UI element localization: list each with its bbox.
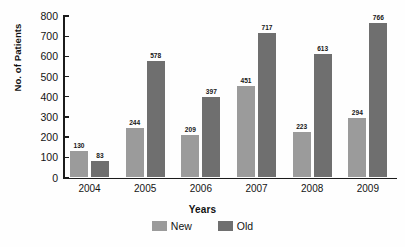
bar-new-2005 <box>126 128 144 177</box>
x-axis-label-2009: 2009 <box>343 183 393 194</box>
x-axis-label-2004: 2004 <box>65 183 115 194</box>
bar-value-label: 397 <box>196 89 226 96</box>
bar-old-2004 <box>91 161 109 178</box>
bar-value-label: 209 <box>175 127 205 134</box>
x-axis-label-2006: 2006 <box>176 183 226 194</box>
x-axis-label-2008: 2008 <box>287 183 337 194</box>
bar-value-label: 578 <box>141 53 171 60</box>
bar-old-2007 <box>258 33 276 178</box>
y-axis-tick-label: 100 <box>24 152 58 163</box>
bars-layer: 13083244578209397451717223613294766 <box>63 0 397 178</box>
y-axis-tick-label: 0 <box>24 173 58 184</box>
x-axis-label-2005: 2005 <box>120 183 170 194</box>
x-axis-line <box>63 178 397 180</box>
y-axis-tick-label: 400 <box>24 92 58 103</box>
legend-label-new: New <box>171 221 192 232</box>
legend-item-new[interactable]: New <box>152 221 192 232</box>
bar-new-2008 <box>293 132 311 177</box>
bar-old-2006 <box>202 97 220 177</box>
bar-old-2005 <box>147 61 165 178</box>
y-axis-title: No. of Patients <box>12 0 23 123</box>
y-axis-tick-label: 700 <box>24 31 58 42</box>
bar-value-label: 130 <box>64 143 94 150</box>
bar-new-2007 <box>237 86 255 177</box>
y-axis-tick-label: 300 <box>24 112 58 123</box>
legend-swatch-new <box>152 221 167 231</box>
bar-value-label: 223 <box>287 124 317 131</box>
bar-value-label: 613 <box>308 46 338 53</box>
chart-legend: NewOld <box>0 221 405 232</box>
y-axis-tick-label: 500 <box>24 72 58 83</box>
bar-value-label: 717 <box>252 25 282 32</box>
bar-old-2008 <box>314 54 332 178</box>
legend-swatch-old <box>218 221 233 231</box>
legend-label-old: Old <box>237 221 253 232</box>
bar-new-2009 <box>348 118 366 177</box>
bar-chart: No. of Patients 010020030040050060070080… <box>0 0 405 247</box>
bar-new-2006 <box>181 135 199 177</box>
y-axis-tick-label: 600 <box>24 51 58 62</box>
x-axis-title: Years <box>0 204 405 215</box>
legend-item-old[interactable]: Old <box>218 221 253 232</box>
bar-value-label: 244 <box>120 120 150 127</box>
y-axis-tick-label: 800 <box>24 11 58 22</box>
bar-value-label: 83 <box>85 153 115 160</box>
bar-value-label: 766 <box>363 15 393 22</box>
bar-value-label: 451 <box>231 78 261 85</box>
bar-value-label: 294 <box>342 110 372 117</box>
y-axis-tick-label: 200 <box>24 132 58 143</box>
x-axis-label-2007: 2007 <box>232 183 282 194</box>
bar-old-2009 <box>369 23 387 178</box>
